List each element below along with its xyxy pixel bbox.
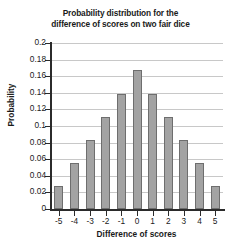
bar bbox=[179, 140, 188, 209]
bar bbox=[70, 163, 79, 209]
bar bbox=[54, 186, 63, 209]
y-tick-label: 0.16 bbox=[2, 70, 46, 80]
y-axis-spine bbox=[50, 42, 52, 210]
y-tick-label: 0.06 bbox=[2, 153, 46, 163]
y-tick-label: 0.2 bbox=[2, 37, 46, 47]
gridline bbox=[51, 43, 223, 44]
chart-title-line-1: Probability distribution for the bbox=[18, 8, 223, 19]
y-tick-label: 0.18 bbox=[2, 54, 46, 64]
y-tick-label: 0.12 bbox=[2, 103, 46, 113]
bar bbox=[101, 117, 110, 209]
x-tick-label: 5 bbox=[204, 216, 226, 226]
x-axis-label: Difference of scores bbox=[48, 229, 225, 239]
y-tick-label: 0.1 bbox=[2, 120, 46, 130]
plot-area bbox=[51, 43, 223, 209]
bar bbox=[211, 186, 220, 209]
gridline bbox=[51, 60, 223, 61]
chart-title-line-2: difference of scores on two fair dice bbox=[18, 19, 223, 30]
bar bbox=[195, 163, 204, 209]
chart-title: Probability distribution for the differe… bbox=[18, 8, 223, 30]
bar bbox=[148, 94, 157, 209]
bar bbox=[86, 140, 95, 209]
y-tick-label: 0.14 bbox=[2, 87, 46, 97]
bar bbox=[117, 94, 126, 209]
y-tick-label: 0.04 bbox=[2, 170, 46, 180]
bar bbox=[164, 117, 173, 209]
chart-figure: Probability distribution for the differe… bbox=[0, 0, 239, 250]
y-tick-label: 0.02 bbox=[2, 186, 46, 196]
y-axis-ticks: 00.020.040.060.080.10.120.140.160.180.2 bbox=[0, 0, 46, 250]
y-tick-label: 0 bbox=[2, 203, 46, 213]
bar bbox=[133, 70, 142, 209]
y-tick-label: 0.08 bbox=[2, 137, 46, 147]
